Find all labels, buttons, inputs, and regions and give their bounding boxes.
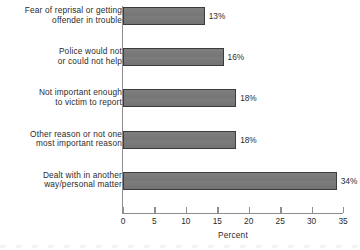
x-tick (154, 207, 155, 213)
chart-figure: Fear of reprisal or getting offender in … (0, 0, 360, 250)
bar-wrapper (123, 131, 236, 149)
category-label: Other reason or not one most important r… (0, 130, 122, 149)
bar[interactable] (123, 7, 205, 25)
x-tick (186, 207, 187, 213)
bar[interactable] (123, 89, 236, 107)
x-tick-label: 25 (276, 216, 285, 226)
x-tick-label: 0 (121, 216, 126, 226)
bar[interactable] (123, 48, 224, 66)
bar-wrapper (123, 172, 337, 190)
x-tick (280, 207, 281, 213)
bar-value-label: 34% (337, 176, 358, 186)
x-tick-label: 30 (307, 216, 316, 226)
bar-value-label: 13% (205, 11, 226, 21)
x-tick-label: 20 (244, 216, 253, 226)
category-label: Fear of reprisal or getting offender in … (0, 6, 122, 25)
category-label: Dealt with in another way/personal matte… (0, 171, 122, 190)
bar-wrapper (123, 89, 236, 107)
x-tick (123, 207, 124, 213)
scan-residue (0, 245, 360, 248)
category-label: Police would not or could not help (0, 48, 122, 67)
bar-value-label: 18% (236, 93, 257, 103)
x-tick-label: 15 (213, 216, 222, 226)
x-tick-label: 10 (181, 216, 190, 226)
bar-row: Not important enough to victim to report… (0, 88, 360, 108)
bar-wrapper (123, 7, 205, 25)
bar-row: Police would not or could not help16% (0, 47, 360, 67)
bar-row: Fear of reprisal or getting offender in … (0, 6, 360, 26)
x-tick-label: 35 (338, 216, 347, 226)
bar-wrapper (123, 48, 224, 66)
x-axis-line (122, 213, 343, 214)
bar-value-label: 18% (236, 135, 257, 145)
bar-row: Other reason or not one most important r… (0, 130, 360, 150)
x-tick (249, 207, 250, 213)
bar[interactable] (123, 172, 337, 190)
x-axis-title: Percent (218, 230, 248, 240)
x-tick (217, 207, 218, 213)
bar-row: Dealt with in another way/personal matte… (0, 171, 360, 191)
category-label: Not important enough to victim to report (0, 89, 122, 108)
x-tick-label: 5 (152, 216, 157, 226)
bar[interactable] (123, 131, 236, 149)
x-tick (343, 207, 344, 213)
bar-value-label: 16% (224, 52, 245, 62)
plot-area: Fear of reprisal or getting offender in … (0, 0, 360, 250)
x-tick (312, 207, 313, 213)
